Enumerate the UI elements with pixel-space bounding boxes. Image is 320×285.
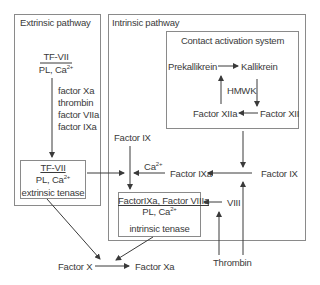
factor-xiia-label: Factor XIIa <box>193 108 237 119</box>
activator-factor-ixa: factor IXa <box>58 121 97 132</box>
cofactor-text: PL, Ca <box>142 206 170 217</box>
factor-xa-label: Factor Xa <box>135 261 174 272</box>
extrinsic-complex-top: TF-VII <box>40 51 72 62</box>
intrinsic-tenase-cofactor: PL, Ca2+ <box>118 206 201 217</box>
prekallikrein-label: Prekallikrein <box>168 61 217 72</box>
kallikrein-label: Kallikrein <box>241 61 278 72</box>
superscript: 2+ <box>156 161 162 167</box>
superscript: 2+ <box>170 206 176 212</box>
intrinsic-tenase-top: FactorIXa, Factor VIIIa <box>118 195 201 206</box>
hmwk-label: HMWK <box>227 85 256 96</box>
factor-ixa-label: Factor IXa <box>170 168 212 179</box>
extrinsic-tenase-label: extrinsic tenase <box>20 187 86 198</box>
viii-label: VIII <box>227 197 240 208</box>
intrinsic-pathway-title: Intrinsic pathway <box>112 17 179 28</box>
factor-ix-left-label: Factor IX <box>114 132 151 143</box>
ca-text: Ca <box>144 161 156 172</box>
factor-ix-right-label: Factor IX <box>261 168 298 179</box>
extrinsic-tenase-cofactor: PL, Ca2+ <box>20 174 86 185</box>
extrinsic-pathway-title: Extrinsic pathway <box>20 17 91 28</box>
cofactor-text: PL, Ca <box>36 174 64 185</box>
activator-factor-viia: factor VIIa <box>58 109 99 120</box>
thrombin-label: Thrombin <box>213 257 252 268</box>
ca-label: Ca2+ <box>144 161 162 172</box>
cofactor-text: PL, Ca <box>39 64 67 75</box>
superscript: 2+ <box>67 64 73 70</box>
activator-factor-xa: factor Xa <box>58 85 94 96</box>
intrinsic-tenase-label: intrinsic tenase <box>118 223 201 234</box>
contact-activation-title: Contact activation system <box>166 35 299 46</box>
factor-xii-label: Factor XII <box>260 108 299 119</box>
extrinsic-complex-cofactor: PL, Ca2+ <box>34 64 78 75</box>
factor-x-label: Factor X <box>58 261 92 272</box>
extrinsic-tenase-top: TF-VII <box>20 162 86 173</box>
superscript: 2+ <box>64 174 70 180</box>
activator-thrombin: thrombin <box>58 97 93 108</box>
